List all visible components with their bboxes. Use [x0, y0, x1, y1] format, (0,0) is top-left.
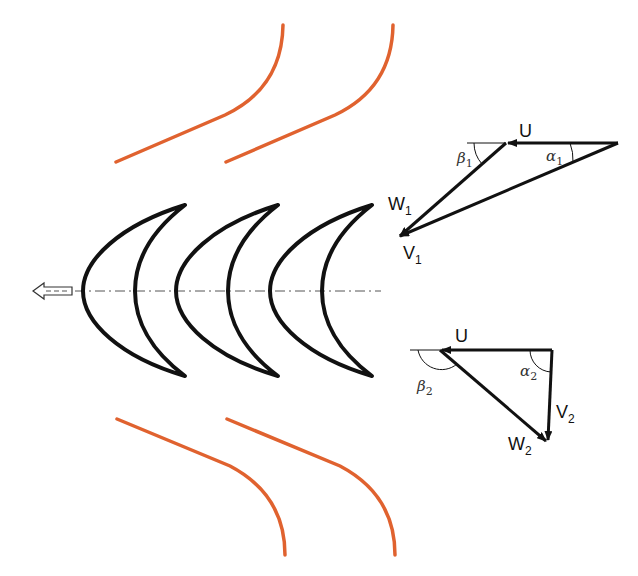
w1-label: W1: [388, 194, 412, 218]
w2-label: W2: [508, 434, 532, 458]
v2-label: V2: [556, 402, 575, 426]
v2-vector: [548, 350, 552, 440]
alpha2-label: α2: [520, 362, 537, 383]
casing-curve-bottom-left: [117, 419, 285, 555]
casing-curve-top-left: [116, 25, 283, 162]
outlet-velocity-triangle: U V2 W2 β2 α2: [410, 326, 575, 458]
v1-label: V1: [403, 243, 422, 267]
inlet-velocity-triangle: U W1 V1 β1 α1: [388, 121, 618, 267]
u2-label: U: [455, 326, 468, 346]
blades: [83, 205, 372, 376]
alpha1-arc: [570, 143, 573, 162]
casing-curves: [116, 25, 395, 555]
alpha2-arc: [530, 350, 551, 372]
turbine-cascade-diagram: U W1 V1 β1 α1 U V2 W2 β2 α2: [0, 0, 638, 576]
beta1-arc: [474, 143, 482, 164]
v1-vector: [400, 143, 618, 236]
casing-curve-bottom-right: [227, 419, 395, 555]
casing-curve-top-right: [226, 25, 393, 162]
flow-direction-arrow-icon: [33, 283, 72, 299]
beta2-label: β2: [416, 377, 433, 398]
alpha1-label: α1: [546, 147, 563, 168]
beta1-label: β1: [456, 149, 473, 170]
u1-label: U: [519, 121, 532, 141]
w1-vector: [400, 143, 506, 236]
